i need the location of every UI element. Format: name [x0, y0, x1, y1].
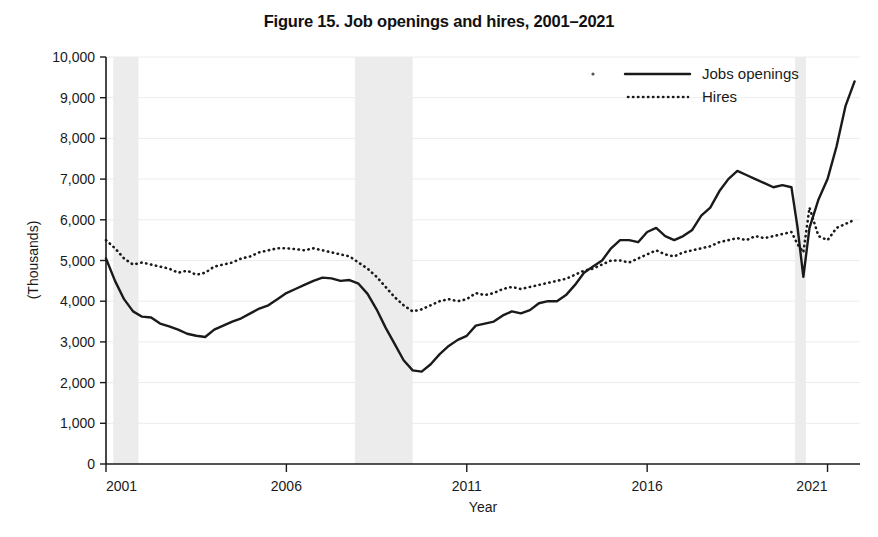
y-axis-tick-label: 10,000	[52, 49, 95, 65]
y-axis-tick-label: 6,000	[60, 212, 95, 228]
y-axis-tick-label: 1,000	[60, 415, 95, 431]
x-axis-tick-label: 2011	[452, 478, 482, 494]
chart-plot-area: 01,0002,0003,0004,0005,0006,0007,0008,00…	[0, 0, 878, 537]
x-axis-title: Year	[469, 499, 498, 515]
x-axis-tick-label: 2021	[796, 478, 827, 494]
y-axis-tick-label: 4,000	[60, 293, 95, 309]
x-axis-tick-label: 2016	[632, 478, 663, 494]
y-axis-title: (Thousands)	[25, 221, 41, 300]
y-axis-tick-label: 8,000	[60, 130, 95, 146]
legend-marker-dot-icon	[591, 72, 594, 75]
y-axis-tick-label: 3,000	[60, 334, 95, 350]
y-axis-tick-label: 0	[87, 456, 95, 472]
y-axis-ticks-group: 01,0002,0003,0004,0005,0006,0007,0008,00…	[52, 49, 106, 472]
y-axis-tick-label: 2,000	[60, 375, 95, 391]
y-axis-tick-label: 9,000	[60, 90, 95, 106]
legend-label-jobs-openings: Jobs openings	[702, 65, 799, 82]
x-axis-ticks-group: 20012006201120162021	[106, 464, 828, 494]
y-axis-tick-label: 7,000	[60, 171, 95, 187]
x-axis-tick-label: 2006	[271, 478, 302, 494]
legend-label-hires: Hires	[702, 88, 737, 105]
y-axis-tick-label: 5,000	[60, 253, 95, 269]
x-axis-tick-label: 2001	[106, 478, 137, 494]
figure-container: Figure 15. Job openings and hires, 2001–…	[0, 0, 878, 537]
